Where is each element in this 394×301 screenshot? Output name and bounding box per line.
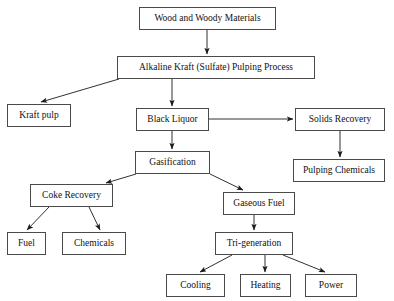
node-label-blackliquor: Black Liquor xyxy=(144,115,200,125)
node-trigen: Tri-generation xyxy=(215,232,293,255)
node-pulpingchem: Pulping Chemicals xyxy=(293,159,385,182)
node-kraft: Alkaline Kraft (Sulfate) Pulping Process xyxy=(117,56,315,79)
flow-arrow-coke-to-chemicals xyxy=(89,207,100,230)
node-label-coke: Coke Recovery xyxy=(39,191,104,201)
node-label-wood: Wood and Woody Materials xyxy=(151,14,263,24)
node-label-fuel: Fuel xyxy=(15,239,38,249)
node-label-cooling: Cooling xyxy=(177,281,214,291)
node-fuel: Fuel xyxy=(7,232,46,255)
node-label-power: Power xyxy=(316,281,346,291)
flow-arrow-gasification-to-coke xyxy=(106,174,136,183)
flow-arrow-gasification-to-gaseous xyxy=(210,174,243,190)
node-heating: Heating xyxy=(240,274,291,297)
node-cooling: Cooling xyxy=(166,274,225,297)
node-label-chemicals: Chemicals xyxy=(71,239,117,249)
flow-arrow-kraft-to-kraftpulp xyxy=(41,79,119,102)
node-wood: Wood and Woody Materials xyxy=(139,7,276,30)
node-label-kraft: Alkaline Kraft (Sulfate) Pulping Process xyxy=(136,63,296,73)
node-coke: Coke Recovery xyxy=(30,184,113,207)
node-label-solids: Solids Recovery xyxy=(306,115,375,125)
node-label-heating: Heating xyxy=(247,281,283,291)
node-label-gasification: Gasification xyxy=(146,158,198,168)
flow-arrow-coke-to-fuel xyxy=(27,207,49,230)
node-chemicals: Chemicals xyxy=(62,232,126,255)
node-power: Power xyxy=(305,274,357,297)
flow-arrow-trigen-to-cooling xyxy=(200,255,232,272)
node-label-pulpingchem: Pulping Chemicals xyxy=(300,166,378,176)
process-flowchart: Wood and Woody MaterialsAlkaline Kraft (… xyxy=(0,0,394,301)
node-label-trigen: Tri-generation xyxy=(224,239,285,249)
node-gasification: Gasification xyxy=(135,151,210,174)
node-label-kraftpulp: Kraft pulp xyxy=(16,111,61,121)
node-kraftpulp: Kraft pulp xyxy=(7,104,71,127)
node-label-gaseous: Gaseous Fuel xyxy=(230,199,287,209)
flow-arrow-trigen-to-power xyxy=(283,255,325,272)
node-blackliquor: Black Liquor xyxy=(136,108,209,131)
node-solids: Solids Recovery xyxy=(295,108,385,131)
node-gaseous: Gaseous Fuel xyxy=(223,192,295,215)
